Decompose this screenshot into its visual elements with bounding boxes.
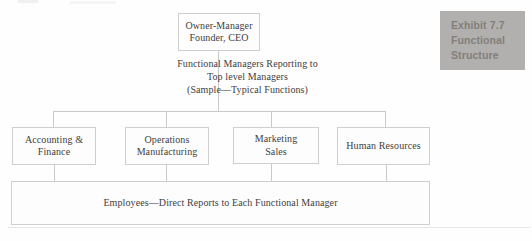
- org-box-text-line: Accounting &: [25, 134, 83, 147]
- org-box-text-line: Manufacturing: [137, 146, 198, 159]
- connector-line-vertical: [271, 111, 272, 127]
- org-box-text-line: Marketing: [255, 133, 298, 146]
- exhibit-tag-line: Exhibit 7.7: [451, 18, 525, 33]
- org-box-operations-manufacturing: Operations Manufacturing: [125, 127, 209, 165]
- org-box-text-line: Finance: [38, 146, 70, 159]
- figure-canvas: Owner-Manager Founder, CEO Functional Ma…: [0, 0, 532, 241]
- org-box-text-line: Employees—Direct Reports to Each Functio…: [103, 197, 337, 210]
- middle-note-line: Top level Managers: [140, 70, 355, 83]
- connector-line-vertical: [54, 164, 55, 181]
- connector-line-vertical: [53, 111, 54, 127]
- connector-line-vertical: [271, 163, 272, 181]
- scan-artifact: [70, 1, 116, 4]
- connector-line-vertical: [166, 111, 167, 127]
- exhibit-tag-line: Structure: [451, 48, 525, 63]
- connector-line-vertical: [166, 164, 167, 181]
- org-box-text-line: Operations: [145, 134, 190, 147]
- middle-note-line: (Sample—Typical Functions): [140, 83, 355, 96]
- exhibit-tag-line: Functional: [451, 33, 525, 48]
- page-rule-divider: [8, 227, 530, 228]
- org-box-owner-manager: Owner-Manager Founder, CEO: [178, 13, 260, 51]
- org-box-accounting-finance: Accounting & Finance: [12, 127, 96, 165]
- org-box-text-line: Sales: [265, 146, 287, 159]
- org-box-employees: Employees—Direct Reports to Each Functio…: [11, 181, 430, 225]
- scan-artifact: [18, 0, 38, 3]
- connector-line-vertical: [385, 111, 386, 127]
- org-box-text-line: Founder, CEO: [189, 32, 248, 45]
- middle-note-line: Functional Managers Reporting to: [140, 57, 355, 70]
- org-box-human-resources: Human Resources: [337, 127, 430, 165]
- org-box-text-line: Owner-Manager: [185, 20, 252, 33]
- middle-note: Functional Managers Reporting to Top lev…: [140, 57, 355, 96]
- connector-line-horizontal: [53, 111, 385, 112]
- exhibit-tag: Exhibit 7.7 Functional Structure: [440, 11, 525, 70]
- org-box-text-line: Human Resources: [346, 140, 421, 153]
- org-box-marketing-sales: Marketing Sales: [233, 127, 319, 164]
- connector-line-vertical: [386, 164, 387, 181]
